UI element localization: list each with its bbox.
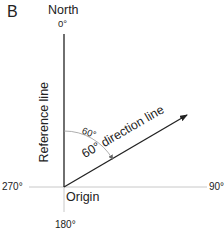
angle-180-label: 180°: [55, 220, 76, 230]
angle-90-label: 90°: [209, 182, 224, 192]
north-label: North: [48, 4, 79, 17]
panel-label: B: [7, 4, 18, 20]
compass-diagram: [0, 0, 224, 242]
reference-line-label: Reference line: [38, 82, 51, 163]
origin-label: Origin: [66, 191, 99, 204]
angle-0-label: 0°: [58, 19, 67, 29]
angle-270-label: 270°: [2, 182, 23, 192]
